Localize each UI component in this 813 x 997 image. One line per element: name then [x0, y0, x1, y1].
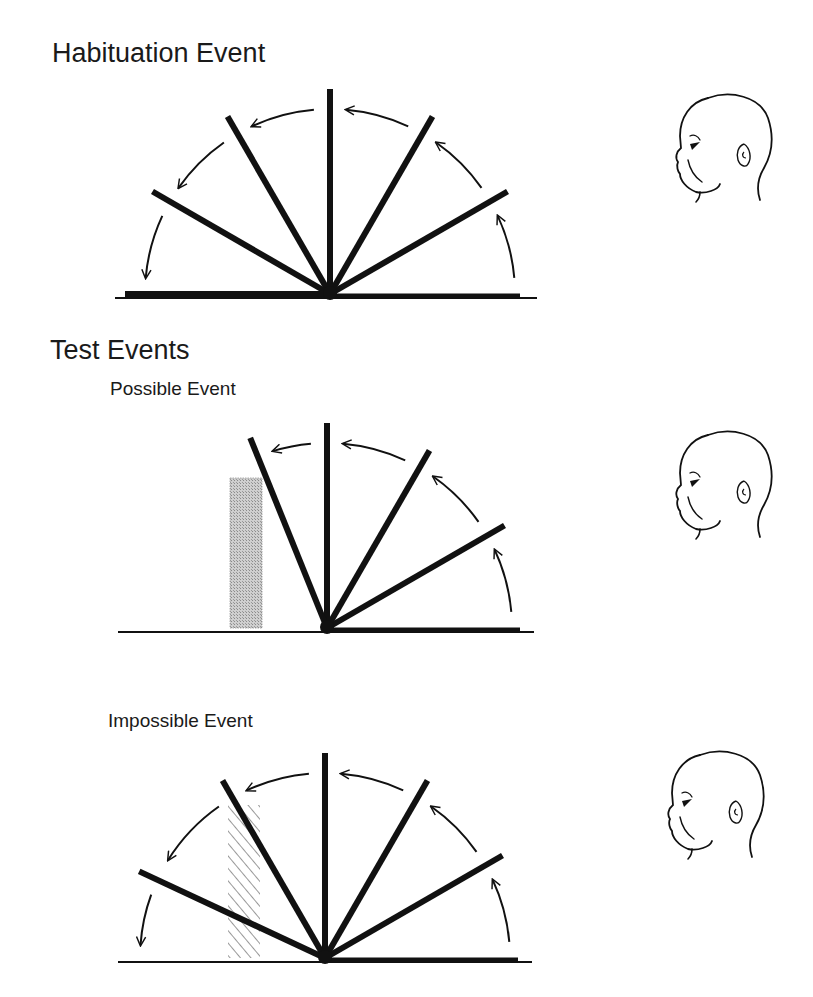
hatched-box-outline — [228, 805, 260, 958]
rotation-arrow — [436, 143, 481, 188]
rotation-arrow — [179, 143, 224, 188]
solid-box — [230, 478, 262, 628]
rotation-arrow — [141, 895, 152, 945]
infant-face-icon — [676, 432, 771, 539]
impossible-panel — [118, 752, 763, 964]
rotation-arrow — [498, 216, 515, 278]
rotation-arrow — [273, 444, 311, 451]
rotation-arrow — [341, 774, 403, 791]
hinge-pivot — [323, 286, 337, 300]
rotation-arrow — [252, 110, 314, 127]
drawbridge-diagram — [0, 0, 813, 997]
habituation-panel — [115, 89, 771, 300]
rotation-arrow — [495, 550, 512, 612]
rotation-arrow — [493, 880, 510, 942]
rotation-arrow — [168, 807, 219, 861]
rotation-arrow — [346, 110, 408, 127]
rotation-arrow — [146, 216, 163, 278]
possible-panel — [118, 423, 771, 634]
rotation-arrow — [431, 807, 476, 852]
rotation-arrow — [343, 444, 405, 461]
rotation-arrow — [247, 774, 309, 791]
hinge-pivot — [318, 950, 332, 964]
rotation-arrow — [433, 477, 478, 522]
hinge-pivot — [320, 620, 334, 634]
infant-face-icon — [668, 752, 763, 859]
infant-face-icon — [676, 95, 771, 202]
